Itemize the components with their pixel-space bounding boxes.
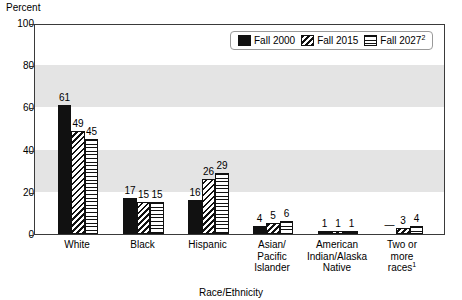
bar[interactable] bbox=[266, 223, 280, 234]
x-axis-category-label-line: more bbox=[357, 251, 447, 263]
bar[interactable] bbox=[396, 228, 410, 234]
x-axis-title: Race/Ethnicity bbox=[0, 287, 462, 298]
bar-value-label: 4 bbox=[406, 214, 428, 224]
bar-value-label: 6 bbox=[276, 209, 298, 219]
bar[interactable] bbox=[280, 221, 294, 234]
legend-item-fall-2000: Fall 2000 bbox=[238, 35, 295, 46]
bar[interactable] bbox=[345, 231, 359, 234]
x-axis-category-label-line: races1 bbox=[357, 262, 447, 274]
y-axis-title: Percent bbox=[6, 2, 40, 14]
x-axis-category-label-line: Two or bbox=[357, 239, 447, 251]
bar[interactable] bbox=[410, 226, 424, 234]
y-axis-tick-mark bbox=[29, 235, 34, 236]
plot-area: 614945171515162629456111—34 bbox=[34, 24, 445, 235]
legend-swatch-icon-fall-2015 bbox=[301, 35, 314, 46]
bar[interactable] bbox=[150, 202, 164, 234]
bar[interactable] bbox=[137, 202, 151, 234]
bar-value-label: 29 bbox=[211, 161, 233, 171]
x-axis-category-footnote-marker: 1 bbox=[412, 261, 416, 268]
bar[interactable] bbox=[253, 226, 267, 234]
x-axis-category-label: Two ormoreraces1 bbox=[357, 239, 447, 274]
background-band bbox=[35, 65, 444, 107]
bar-value-label: 15 bbox=[146, 190, 168, 200]
legend-item-fall-2015: Fall 2015 bbox=[301, 35, 358, 46]
bar[interactable] bbox=[318, 231, 332, 234]
bar-value-label: 61 bbox=[54, 93, 76, 103]
bar-value-label: 45 bbox=[81, 127, 103, 137]
bar[interactable] bbox=[331, 231, 345, 234]
legend-swatch-icon-fall-2000 bbox=[238, 35, 251, 46]
legend-label-text-fall-2027: Fall 2027 bbox=[380, 35, 421, 46]
bar[interactable] bbox=[188, 200, 202, 234]
bar[interactable] bbox=[71, 131, 85, 234]
legend-item-fall-2027: Fall 20272 bbox=[364, 35, 425, 46]
bar-chart: Percent 020406080100 6149451715151626294… bbox=[0, 0, 462, 300]
bar[interactable] bbox=[123, 198, 137, 234]
legend-label-fall-2000: Fall 2000 bbox=[254, 35, 295, 46]
bar[interactable] bbox=[215, 173, 229, 234]
legend-label-fall-2015: Fall 2015 bbox=[317, 35, 358, 46]
legend-label-fall-2027: Fall 20272 bbox=[380, 35, 425, 46]
bar[interactable] bbox=[202, 179, 216, 234]
bar-value-label: 1 bbox=[341, 219, 363, 229]
legend-footnote-marker-fall-2027: 2 bbox=[421, 34, 425, 41]
legend-swatch-icon-fall-2027 bbox=[364, 35, 377, 46]
chart-legend: Fall 2000 Fall 2015 Fall 20272 bbox=[230, 31, 433, 50]
bar[interactable] bbox=[85, 139, 99, 234]
